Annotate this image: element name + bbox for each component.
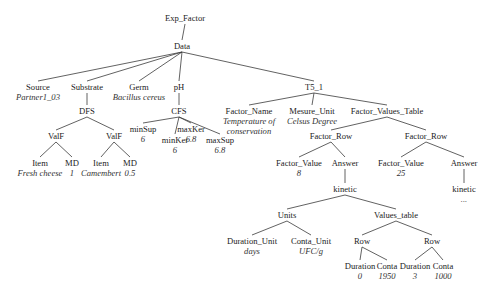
- node-label: maxSup: [206, 135, 234, 145]
- edge-factor_row2-answer2: [426, 142, 464, 157]
- edge-valf2-item2: [101, 142, 114, 157]
- node-label: ValF: [106, 131, 122, 141]
- node-label: Duration: [345, 261, 376, 271]
- tree-node-factor-name: Factor_Name Temperature of conservation: [218, 106, 280, 136]
- node-value: 0.5: [123, 168, 137, 178]
- node-label: MD: [65, 158, 79, 168]
- node-label: Source: [16, 82, 60, 92]
- edge-row2-conta2: [432, 247, 443, 260]
- node-label: Conta: [433, 261, 454, 271]
- tree-node-item2: Item Camembert: [81, 158, 121, 178]
- node-label: Factor_Value: [378, 158, 424, 168]
- edge-row1-conta1: [362, 247, 387, 260]
- tree-node-duration1: Duration 0: [345, 261, 376, 281]
- tree-node-conta2: Conta 1000: [433, 261, 454, 281]
- node-label: Factor_Row: [405, 131, 448, 141]
- tree-node-answer2: Answer: [451, 158, 478, 168]
- edge-valf2-md2: [114, 142, 130, 157]
- node-value: 1000: [433, 271, 454, 281]
- tree-node-minsup: minSup 6: [130, 124, 157, 144]
- node-value: 3: [400, 271, 431, 281]
- node-label: Answer: [451, 158, 478, 168]
- node-label: Duration_Unit: [227, 236, 277, 246]
- tree-node-kinetic1: kinetic: [333, 184, 356, 194]
- edge-values_table-row1: [362, 221, 396, 235]
- node-label: Factor_Values_Table: [351, 106, 423, 116]
- node-label: Duration: [400, 261, 431, 271]
- node-label: Units: [278, 210, 297, 220]
- node-label: Row: [424, 236, 440, 246]
- node-label: CFS: [171, 106, 186, 116]
- node-value: ...: [452, 194, 475, 204]
- tree-node-row2: Row: [424, 236, 440, 246]
- node-value: 0: [345, 271, 376, 281]
- edge-dfs-valf1: [56, 117, 87, 130]
- node-value: 25: [378, 168, 424, 178]
- edge-kinetic1-units: [287, 195, 345, 209]
- tree-node-item1: Item Fresh cheese: [18, 158, 63, 178]
- node-label: Item: [18, 158, 63, 168]
- tree-node-ph: pH: [174, 82, 185, 92]
- tree-node-conta-unit: Conta_Unit UFC/g: [291, 236, 331, 256]
- node-label: minSup: [130, 124, 157, 134]
- edge-row1-duration1: [360, 247, 362, 260]
- edge-units-duration_unit: [252, 221, 287, 235]
- node-label: Factor_Row: [310, 131, 353, 141]
- tree-node-factor-values-table: Factor_Values_Table: [351, 106, 423, 116]
- tree-node-factor-row1: Factor_Row: [310, 131, 353, 141]
- edge-factor_row1-answer1: [331, 142, 345, 157]
- node-value: Celsus Degree: [287, 116, 337, 126]
- tree-node-row1: Row: [354, 236, 370, 246]
- edge-data-ph: [179, 52, 182, 81]
- tree-diagram: Exp_Factor Data Source Partner1_03 Subst…: [0, 0, 490, 289]
- tree-node-valf1: ValF: [48, 131, 64, 141]
- tree-node-duration-unit: Duration_Unit days: [227, 236, 277, 256]
- node-label: Factor_Value: [276, 158, 322, 168]
- node-label: Data: [174, 41, 190, 51]
- edge-factor_row2-factor_value2: [401, 142, 426, 157]
- edge-exp_factor-data: [182, 24, 185, 40]
- node-value: 6: [130, 134, 157, 144]
- edge-kinetic1-values_table: [345, 195, 396, 209]
- tree-node-cfs: CFS: [171, 106, 186, 116]
- node-value: 8: [276, 168, 322, 178]
- tree-node-md1: MD 1: [65, 158, 79, 178]
- tree-node-data: Data: [174, 41, 190, 51]
- tree-node-t5-1: T5_1: [305, 82, 323, 92]
- tree-node-conta1: Conta 1950: [377, 261, 398, 281]
- tree-node-source: Source Partner1_03: [16, 82, 60, 102]
- node-label: Conta: [377, 261, 398, 271]
- node-label: T5_1: [305, 82, 323, 92]
- tree-node-mesure-unit: Mesure_Unit Celsus Degree: [287, 106, 337, 126]
- node-label: Mesure_Unit: [287, 106, 337, 116]
- node-value: Bacillus cereus: [113, 92, 165, 102]
- edge-t5_1-factor_values_table: [314, 93, 387, 105]
- edge-cfs-minsup: [143, 117, 179, 123]
- edge-factor_values_table-factor_row2: [387, 117, 426, 130]
- tree-node-factor-row2: Factor_Row: [405, 131, 448, 141]
- tree-node-kinetic2: kinetic ...: [452, 184, 475, 204]
- node-value: 1950: [377, 271, 398, 281]
- node-label: kinetic: [452, 184, 475, 194]
- tree-node-answer1: Answer: [332, 158, 359, 168]
- tree-node-units: Units: [278, 210, 297, 220]
- edge-valf1-item1: [40, 142, 56, 157]
- edge-dfs-valf2: [87, 117, 114, 130]
- tree-node-valf2: ValF: [106, 131, 122, 141]
- tree-node-germ: Germ Bacillus cereus: [113, 82, 165, 102]
- node-label: Row: [354, 236, 370, 246]
- node-value: days: [227, 246, 277, 256]
- node-value: Temperature of conservation: [218, 116, 280, 136]
- edge-values_table-row2: [396, 221, 432, 235]
- tree-node-dfs: DFS: [79, 106, 95, 116]
- node-label: maxKer: [177, 124, 205, 134]
- node-label: kinetic: [333, 184, 356, 194]
- edge-units-conta_unit: [287, 221, 311, 235]
- node-label: Germ: [113, 82, 165, 92]
- tree-node-factor-value1: Factor_Value 8: [276, 158, 322, 178]
- edge-data-t5_1: [182, 52, 314, 81]
- node-value: 1: [65, 168, 79, 178]
- node-label: DFS: [79, 106, 95, 116]
- node-label: ValF: [48, 131, 64, 141]
- node-value: 6.8: [206, 145, 234, 155]
